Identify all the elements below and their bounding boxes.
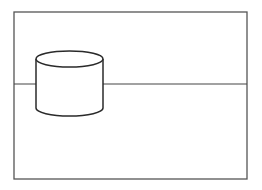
cylinder-shape [36,51,103,116]
cylinder-top-ellipse [36,51,103,67]
scene-diagram [0,0,262,190]
